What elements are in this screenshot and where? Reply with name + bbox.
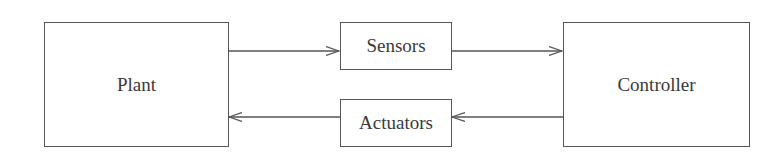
plant-block: Plant — [44, 22, 229, 147]
controller-block: Controller — [563, 22, 750, 147]
sensors-block: Sensors — [340, 22, 452, 70]
actuators-label: Actuators — [359, 112, 433, 134]
actuators-block: Actuators — [340, 99, 452, 147]
plant-label: Plant — [117, 74, 156, 96]
controller-label: Controller — [617, 74, 695, 96]
sensors-label: Sensors — [366, 35, 425, 57]
